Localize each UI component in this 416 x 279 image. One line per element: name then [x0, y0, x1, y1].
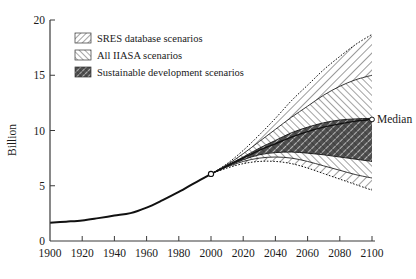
x-tick-label: 1980 [167, 247, 190, 259]
plot-area [50, 34, 372, 222]
x-tick-label: 2040 [264, 247, 287, 259]
legend-swatch-sres [75, 33, 91, 43]
legend-label-iiasa: All IIASA scenarios [97, 50, 182, 61]
legend-swatch-iiasa [75, 50, 91, 60]
median-annotation: Median [370, 113, 413, 125]
legend-item-sustainable: Sustainable development scenarios [75, 67, 244, 78]
y-tick-label: 10 [34, 125, 46, 137]
x-tick-label: 2060 [296, 247, 319, 259]
y-tick-label: 20 [34, 14, 46, 26]
x-tick-label: 1960 [135, 247, 158, 259]
median-annotation-label: Median [377, 113, 412, 125]
legend-item-sres: SRES database scenarios [75, 33, 203, 44]
x-tick-label: 2080 [328, 247, 351, 259]
year-2000-pivot-marker [208, 171, 213, 176]
chart-canvas: 05101520 1900192019401960198020002020204… [0, 0, 416, 279]
median-annotation-marker [370, 117, 375, 122]
x-axis-tick-labels: 1900192019401960198020002020204020602080… [39, 247, 384, 259]
x-tick-label: 2100 [361, 247, 384, 259]
y-tick-label: 15 [34, 69, 46, 81]
x-tick-label: 2020 [232, 247, 255, 259]
legend-label-sustainable: Sustainable development scenarios [97, 67, 244, 78]
y-tick-label: 0 [39, 235, 45, 247]
x-tick-label: 2000 [200, 247, 223, 259]
legend-swatch-sustainable [75, 67, 91, 77]
y-axis-tick-labels: 05101520 [34, 14, 46, 247]
x-axis-ticks [82, 236, 372, 241]
legend-item-iiasa: All IIASA scenarios [75, 50, 182, 61]
legend-label-sres: SRES database scenarios [97, 33, 203, 44]
x-tick-label: 1900 [39, 247, 62, 259]
y-tick-label: 5 [39, 180, 45, 192]
x-tick-label: 1940 [103, 247, 126, 259]
x-tick-label: 1920 [71, 247, 94, 259]
population-projection-chart: 05101520 1900192019401960198020002020204… [0, 0, 416, 279]
y-axis-ticks [50, 20, 55, 186]
historical-population-line [50, 174, 211, 223]
y-axis-title: Billion [6, 124, 18, 156]
legend: SRES database scenarios All IIASA scenar… [75, 33, 244, 78]
